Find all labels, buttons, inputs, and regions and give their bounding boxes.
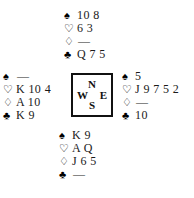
hand-east: ♠ 5 ♡ J 9 7 5 2 ♢ — ♣ 10 (122, 70, 179, 122)
heart-icon: ♡ (3, 83, 14, 96)
hand-west: ♠ — ♡ K 10 4 ♢ A 10 ♣ K 9 (3, 70, 51, 122)
compass-south-label: S (73, 100, 111, 111)
south-club-row: ♣ — (59, 168, 97, 181)
diamond-icon: ♢ (3, 96, 14, 109)
diamond-icon: ♢ (59, 155, 70, 168)
compass-east-label: E (100, 90, 107, 101)
north-club-row: ♣ Q 7 5 (64, 48, 106, 61)
bridge-hand-diagram: ♠ 10 8 ♡ 6 3 ♢ — ♣ Q 7 5 ♠ — ♡ K 10 4 ♢ … (0, 0, 194, 198)
compass-box: N W E S (71, 73, 113, 117)
diamond-icon: ♢ (122, 96, 133, 109)
east-heart-row: ♡ J 9 7 5 2 (122, 83, 179, 96)
east-diamond-row: ♢ — (122, 96, 179, 109)
club-icon: ♣ (3, 109, 14, 122)
spade-icon: ♠ (64, 9, 75, 22)
spade-icon: ♠ (122, 70, 133, 83)
south-club-ranks: — (70, 168, 85, 181)
diamond-icon: ♢ (64, 35, 75, 48)
club-icon: ♣ (64, 48, 75, 61)
heart-icon: ♡ (122, 83, 133, 96)
east-club-ranks: 10 (133, 109, 148, 122)
spade-icon: ♠ (3, 70, 14, 83)
heart-icon: ♡ (59, 142, 70, 155)
west-club-ranks: K 9 (14, 109, 35, 122)
club-icon: ♣ (122, 109, 133, 122)
north-club-ranks: Q 7 5 (75, 48, 106, 61)
west-club-row: ♣ K 9 (3, 109, 51, 122)
compass-west-label: W (77, 90, 88, 101)
spade-icon: ♠ (59, 129, 70, 142)
hand-south: ♠ K 9 ♡ A Q ♢ J 6 5 ♣ — (59, 129, 97, 181)
club-icon: ♣ (59, 168, 70, 181)
heart-icon: ♡ (64, 22, 75, 35)
hand-north: ♠ 10 8 ♡ 6 3 ♢ — ♣ Q 7 5 (64, 9, 106, 61)
east-club-row: ♣ 10 (122, 109, 179, 122)
